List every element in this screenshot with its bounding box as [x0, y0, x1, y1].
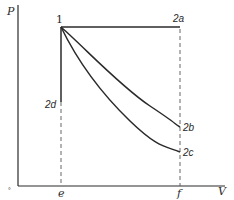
point-label-2a: 2a	[172, 13, 185, 24]
pv-diagram: P V ° 1 2a 2b 2c 2d e f	[0, 0, 234, 200]
origin-mark: °	[8, 187, 11, 194]
x-tick-e: e	[58, 187, 65, 200]
y-axis-label: P	[6, 5, 15, 18]
point-label-1: 1	[56, 13, 63, 26]
process-1-2c	[61, 27, 180, 152]
point-label-2c: 2c	[182, 147, 194, 158]
point-label-2d: 2d	[44, 99, 57, 110]
point-label-2b: 2b	[182, 122, 195, 133]
x-tick-f: f	[176, 187, 183, 200]
x-axis-label: V	[218, 185, 227, 198]
